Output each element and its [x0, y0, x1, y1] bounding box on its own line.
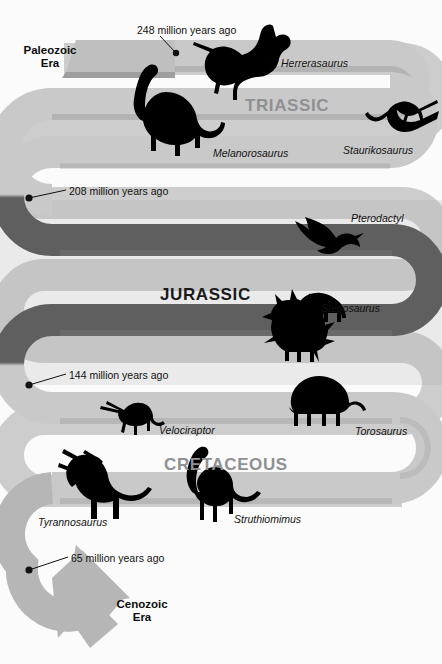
marker-label-208: 208 million years ago [69, 185, 168, 197]
species-label-staurikosaurus: Staurikosaurus [343, 144, 413, 156]
paleozoic-line1: Paleozoic [10, 44, 90, 57]
marker-label-248: 248 million years ago [137, 24, 236, 36]
period-label-triassic: TRIASSIC [245, 96, 329, 116]
marker-label-65: 65 million years ago [71, 552, 164, 564]
cenozoic-era-label: Cenozoic Era [102, 598, 182, 624]
marker-label-144: 144 million years ago [69, 369, 168, 381]
species-label-torosaurus: Torosaurus [355, 425, 407, 437]
mesozoic-era-timeline-infographic: THE MESOZOIC ERA [0, 0, 442, 664]
paleozoic-era-label: Paleozoic Era [10, 44, 90, 70]
species-label-stegosaurus: Stegosaurus [321, 302, 380, 314]
species-label-struthiomimus: Struthiomimus [234, 513, 301, 525]
cenozoic-line2: Era [102, 611, 182, 624]
paleozoic-line2: Era [10, 57, 90, 70]
paleozoic-slab-edge [62, 72, 175, 78]
timeline-graphic [0, 0, 442, 664]
period-label-cretaceous: CRETACEOUS [164, 455, 288, 475]
period-label-jurassic: JURASSIC [160, 285, 251, 305]
species-label-pterodactyl: Pterodactyl [351, 212, 404, 224]
cenozoic-line1: Cenozoic [102, 598, 182, 611]
species-label-herrerasaurus: Herrerasaurus [281, 57, 348, 69]
species-label-tyrannosaurus: Tyrannosaurus [38, 516, 107, 528]
species-label-melanorosaurus: Melanorosaurus [213, 147, 288, 159]
species-label-velociraptor: Velociraptor [159, 424, 215, 436]
